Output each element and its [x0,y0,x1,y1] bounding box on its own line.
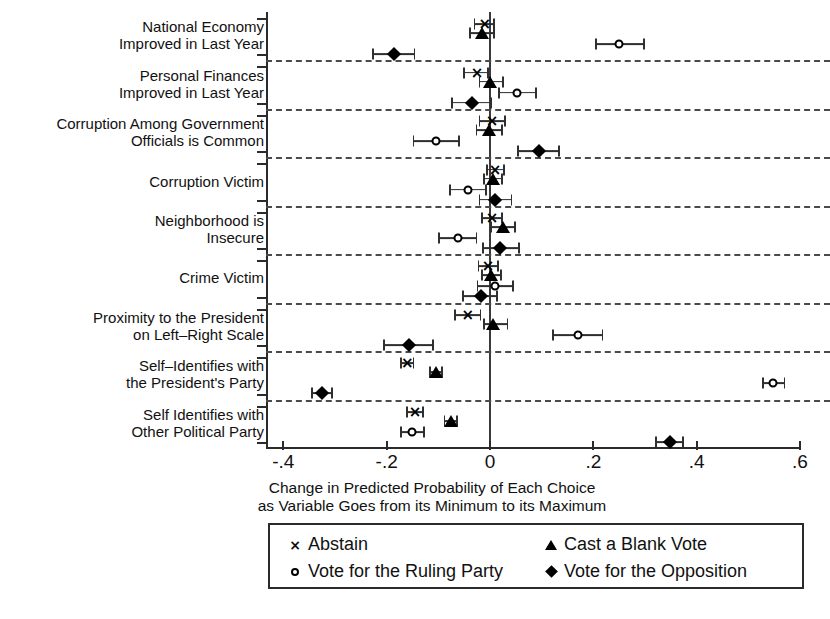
data-point [435,364,437,380]
ci-cap-low [449,184,451,195]
data-point [393,46,395,62]
circle-marker-icon [573,330,582,339]
data-point [408,337,410,353]
circle-marker-icon [491,282,500,291]
ci-cap-high [504,116,506,127]
x-axis-tick-label: 0 [460,452,520,472]
ci-cap-low [517,146,519,157]
ci-cap-high [682,436,684,447]
diamond-marker-icon [315,386,329,400]
group-separator-line [266,303,830,305]
y-axis-tick [257,103,267,105]
legend-item: Cast a Blank Vote [538,531,794,558]
circle-marker-icon [408,427,417,436]
x-axis-tick-label: -.2 [357,452,417,472]
y-axis-label-line1: Corruption Victim [149,173,264,190]
triangle-marker-icon [483,76,497,88]
triangle-marker-icon [429,366,443,378]
data-point [480,288,482,304]
x-axis-tick-label: .2 [563,452,623,472]
ci-cap-low [462,291,464,302]
y-axis-label-line2: Improved in Last Year [119,84,264,101]
ci-cap-low [478,261,480,272]
legend-label: Vote for the Ruling Party [308,561,503,582]
marker-glyph [545,565,558,578]
ci-cap-high [432,339,434,350]
ci-cap-high [414,49,416,60]
data-point [499,240,501,256]
legend-label: Abstain [308,534,368,555]
y-axis-tick [257,54,267,56]
triangle-marker-icon [475,27,489,39]
y-axis-tick [257,345,267,347]
ci-cap-high [643,39,645,50]
data-point [538,143,540,159]
ci-cap-high [502,76,504,87]
y-axis-tick [257,394,267,396]
diamond-marker-icon [538,562,564,582]
data-point [450,413,452,429]
ci-cap-high [784,378,786,389]
x-marker-icon: × [401,358,414,369]
group-separator-line [266,206,830,208]
ci-cap-low [479,194,481,205]
ci-cap-low [469,28,471,39]
data-point [490,267,492,283]
y-axis-label-line1: Personal Finances [119,67,264,84]
circle-marker-icon [513,88,522,97]
ci-cap-high [500,270,502,281]
data-point [492,316,494,332]
ci-cap-low [481,270,483,281]
data-point [494,192,496,208]
data-point [502,219,504,235]
ci-cap-low [479,76,481,87]
y-axis-label-line2: Officials is Common [56,132,264,149]
group-separator-line [266,109,830,111]
ci-cap-low [372,49,374,60]
y-axis-label-line1: National Economy [119,18,264,35]
circle-marker-icon [432,137,441,146]
ci-cap-high [458,136,460,147]
ci-cap-low [454,309,456,320]
x-axis-tick [386,441,388,450]
ci-cap-low [383,339,385,350]
group-separator-line [266,60,830,62]
data-point [489,74,491,90]
x-axis-tick [282,441,284,450]
plot-area: National EconomyImproved in Last YearPer… [0,0,830,460]
data-point: × [414,404,416,420]
x-marker-icon: × [282,535,308,555]
diamond-marker-icon [402,338,416,352]
legend-box: ×AbstainCast a Blank VoteVote for the Ru… [268,523,804,589]
group-separator-line [266,157,830,159]
diamond-marker-icon [465,96,479,110]
data-point [772,375,774,391]
x-marker-icon: × [409,406,422,417]
x-axis-tick-label: -.4 [253,452,313,472]
y-axis-line [266,12,268,448]
y-axis-tick [257,248,267,250]
legend-item: Vote for the Ruling Party [282,558,538,585]
ci-cap-low [481,213,483,224]
ci-cap-high [511,194,513,205]
y-axis-label-line1: Proximity to the President [93,309,264,326]
x-axis-tick [799,441,801,450]
diamond-marker-icon [387,47,401,61]
ci-cap-high [535,87,537,98]
ci-cap-low [451,97,453,108]
triangle-marker-icon [486,173,500,185]
x-axis-tick [489,441,491,450]
ci-cap-low [311,388,313,399]
ci-cap-high [476,233,478,244]
x-axis-tick [696,441,698,450]
legend-item: Vote for the Opposition [538,558,794,585]
triangle-marker-icon [496,221,510,233]
x-axis-tick [592,441,594,450]
y-axis-label: Proximity to the Presidenton Left–Right … [93,309,264,343]
circle-marker-icon [615,40,624,49]
legend-grid: ×AbstainCast a Blank VoteVote for the Ru… [282,531,794,585]
y-axis-label: Neighborhood isInsecure [155,212,264,246]
triangle-marker-icon [538,535,564,555]
y-axis-label-line1: Neighborhood is [155,212,264,229]
y-axis-label-line1: Crime Victim [179,269,264,286]
